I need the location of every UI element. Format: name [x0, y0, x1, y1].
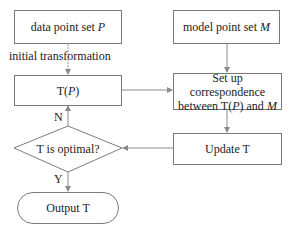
output-label: Output T	[46, 201, 89, 215]
transformed-set-label: T(P)	[57, 84, 80, 98]
correspondence-box: Set up correspondence between T(P) and M	[173, 73, 282, 110]
no-label: N	[54, 110, 63, 124]
update-label: Update T	[205, 142, 250, 156]
output-terminal: Output T	[17, 192, 119, 224]
transformed-set-box: T(P)	[14, 75, 122, 106]
model-point-set-box: model point set M	[173, 10, 280, 44]
decision-label: T is optimal?	[36, 142, 99, 156]
data-point-set-label: data point set P	[31, 20, 105, 34]
data-point-set-box: data point set P	[14, 10, 122, 44]
yes-label: Y	[54, 172, 63, 186]
update-box: Update T	[173, 133, 282, 165]
model-point-set-label: model point set M	[183, 20, 270, 34]
correspondence-label: Set up correspondence between T(P) and M	[174, 71, 281, 113]
initial-transformation-label: initial transformation	[9, 49, 111, 63]
